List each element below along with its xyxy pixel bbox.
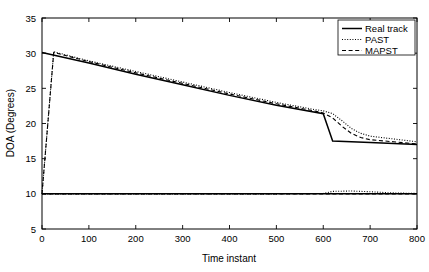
x-tick-label-700: 700 [362,233,378,244]
x-tick-label-600: 600 [315,233,331,244]
y-tick-label-5: 5 [31,224,36,235]
x-tick-label-300: 300 [175,233,191,244]
y-tick-label-20: 20 [25,118,36,129]
legend-label-past: PAST [365,34,389,45]
x-tick-label-200: 200 [128,233,144,244]
legend-label-real-track: Real track [365,23,408,34]
y-tick-label-25: 25 [25,83,36,94]
y-tick-label-35: 35 [25,13,36,24]
y-tick-label-10: 10 [25,188,36,199]
x-tick-label-800: 800 [409,233,425,244]
y-tick-label-group: 5101520253035 [25,13,36,235]
x-tick-label-0: 0 [39,233,44,244]
chart-figure: 0100200300400500600700800 5101520253035 … [0,0,429,272]
x-tick-label-100: 100 [81,233,97,244]
x-tick-label-500: 500 [268,233,284,244]
legend: Real track PAST MAPST [338,20,415,56]
chart-canvas: 0100200300400500600700800 5101520253035 … [0,0,429,272]
y-tick-label-15: 15 [25,153,36,164]
legend-label-mapst: MAPST [365,45,398,56]
x-tick-label-group: 0100200300400500600700800 [39,233,425,244]
y-tick-label-30: 30 [25,48,36,59]
x-axis-title: Time instant [202,253,256,264]
y-axis-title: DOA (Degrees) [5,89,16,157]
x-tick-label-400: 400 [222,233,238,244]
